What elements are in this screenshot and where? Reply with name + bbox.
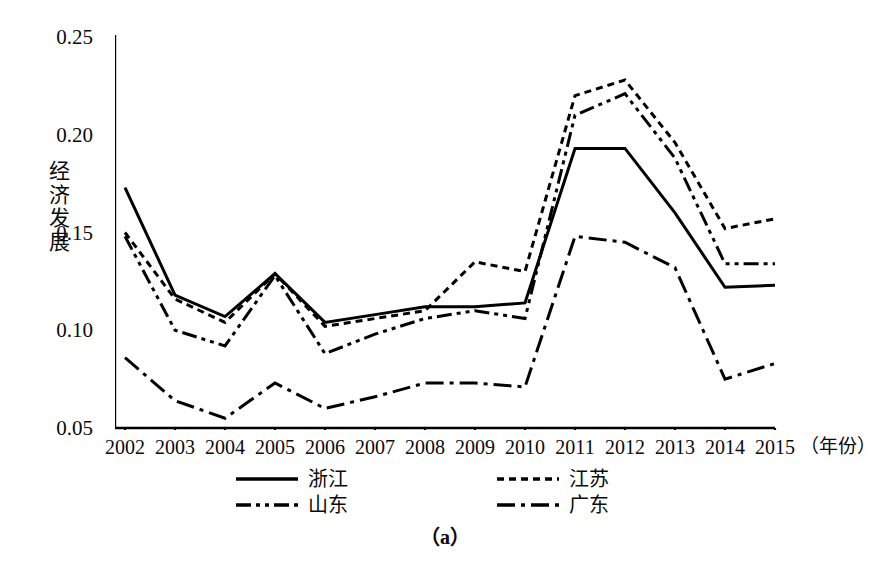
chart-canvas: [115, 30, 780, 430]
legend-swatch-dotted: [497, 472, 559, 486]
legend-row-2: 山东 广东: [236, 492, 666, 518]
y-tick-label-0: 0.05: [27, 418, 93, 439]
x-tick-label-13: 2015: [755, 437, 795, 457]
plot-area: [115, 30, 780, 430]
figure-caption: （a）: [0, 521, 890, 550]
legend-swatch-dash-dot-dot: [236, 498, 298, 512]
legend-swatch-solid: [236, 472, 298, 486]
x-tick-label-5: 2007: [355, 437, 395, 457]
series-line-0: [125, 148, 775, 322]
y-tick-label-3: 0.20: [27, 124, 93, 145]
x-tick-label-3: 2005: [255, 437, 295, 457]
legend-row-1: 浙江 江苏: [236, 466, 666, 492]
x-tick-label-2: 2004: [205, 437, 245, 457]
x-tick-label-8: 2010: [505, 437, 545, 457]
y-tick-label-2: 0.15: [27, 222, 93, 243]
legend-label-0: 浙江: [308, 469, 348, 489]
series-line-3: [125, 236, 775, 418]
x-tick-label-7: 2009: [455, 437, 495, 457]
x-tick-label-10: 2012: [605, 437, 645, 457]
x-tick-label-12: 2014: [705, 437, 745, 457]
legend-label-2: 山东: [308, 495, 348, 515]
legend-label-1: 江苏: [569, 469, 609, 489]
x-tick-label-9: 2011: [555, 437, 594, 457]
chart-legend: 浙江 江苏 山东 广东: [236, 466, 666, 518]
x-tick-label-6: 2008: [405, 437, 445, 457]
y-axis-tick-labels: 0.050.100.150.200.25: [27, 0, 93, 565]
legend-item-2[interactable]: 山东: [236, 495, 451, 515]
x-axis-title: （年份）: [800, 437, 876, 456]
y-tick-label-1: 0.10: [27, 320, 93, 341]
legend-swatch-dash-dot: [497, 498, 559, 512]
series-line-1: [125, 80, 775, 326]
legend-item-1[interactable]: 江苏: [451, 469, 666, 489]
y-tick-label-4: 0.25: [27, 27, 93, 48]
x-tick-label-1: 2003: [155, 437, 195, 457]
x-axis-tick-labels: 2002200320042005200620072008200920102011…: [0, 437, 890, 465]
x-tick-label-4: 2006: [305, 437, 345, 457]
x-tick-label-11: 2013: [655, 437, 695, 457]
x-tick-label-0: 2002: [105, 437, 145, 457]
legend-item-3[interactable]: 广东: [451, 495, 666, 515]
legend-label-3: 广东: [569, 495, 609, 515]
legend-item-0[interactable]: 浙江: [236, 469, 451, 489]
figure-panel-a: 经 济 发 展 0.050.100.150.200.25 20022003200…: [0, 0, 890, 565]
